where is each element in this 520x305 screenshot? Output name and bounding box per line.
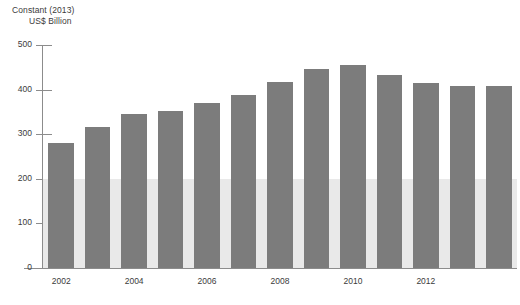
x-tick-label-2002: 2002: [41, 276, 81, 286]
bar-2005: [158, 111, 184, 268]
bar-2010: [340, 65, 366, 268]
x-tick-label-2012: 2012: [406, 276, 446, 286]
bar-2013: [450, 86, 476, 268]
y-tick-mark-100: [36, 223, 43, 224]
plot-area: [43, 45, 517, 268]
y-tick-stub-500: [43, 45, 52, 46]
y-axis-title-line-1: Constant (2013): [12, 5, 152, 16]
y-tick-mark-300: [36, 134, 43, 135]
y-tick-mark-200: [36, 179, 43, 180]
y-tick-label-200: 200: [2, 174, 32, 183]
bar-2007: [231, 95, 257, 268]
x-tick-label-2004: 2004: [114, 276, 154, 286]
bar-2008: [267, 82, 293, 268]
x-tick-label-2010: 2010: [333, 276, 373, 286]
y-axis-title: Constant (2013) US$ Billion: [12, 5, 152, 27]
y-axis-line: [42, 45, 43, 269]
bar-2003: [85, 127, 111, 268]
bar-2009: [304, 69, 330, 268]
y-tick-label-300: 300: [2, 129, 32, 138]
y-tick-label-400: 400: [2, 85, 32, 94]
bar-2014: [486, 86, 512, 268]
x-tick-label-2008: 2008: [260, 276, 300, 286]
bar-2012: [413, 83, 439, 268]
bar-2002: [48, 143, 74, 268]
x-axis-line: [24, 268, 517, 269]
y-tick-mark-400: [36, 90, 43, 91]
y-tick-label-100: 100: [2, 218, 32, 227]
y-tick-label-0: 0: [2, 263, 32, 272]
x-tick-label-2006: 2006: [187, 276, 227, 286]
y-tick-mark-500: [36, 45, 43, 46]
chart-page: Constant (2013) US$ Billion 010020030040…: [0, 0, 520, 305]
y-tick-stub-400: [43, 90, 52, 91]
bar-2006: [194, 103, 220, 268]
y-tick-label-500: 500: [2, 40, 32, 49]
y-axis-title-line-2: US$ Billion: [12, 16, 152, 27]
y-tick-stub-300: [43, 134, 52, 135]
bar-2004: [121, 114, 147, 268]
bar-2011: [377, 75, 403, 268]
